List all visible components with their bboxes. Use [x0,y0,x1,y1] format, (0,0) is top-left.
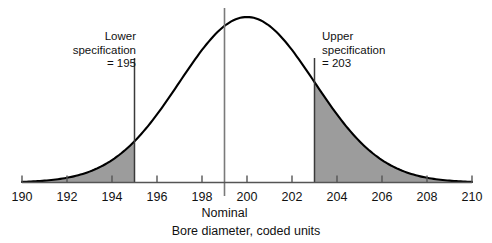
x-axis-tick-label: 194 [92,190,132,204]
x-axis-tick-label: 196 [137,190,177,204]
x-axis-tick-label: 190 [2,190,42,204]
upper-specification-annotation: Upper specification = 203 [322,30,422,71]
x-axis-tick-label: 210 [452,190,492,204]
x-axis-title: Bore diameter, coded units [0,224,492,238]
x-axis-tick-label: 200 [227,190,267,204]
x-axis-tick-label: 202 [272,190,312,204]
x-axis-tick-label: 206 [362,190,402,204]
x-axis-tick-label: 192 [47,190,87,204]
nominal-label: Nominal [165,206,285,220]
x-axis-tick-label: 198 [182,190,222,204]
distribution-chart: Lower specification = 195 Upper specific… [0,0,492,243]
x-axis-tick-label: 204 [317,190,357,204]
lower-specification-annotation: Lower specification = 195 [58,30,136,71]
x-axis-tick-label: 208 [407,190,447,204]
